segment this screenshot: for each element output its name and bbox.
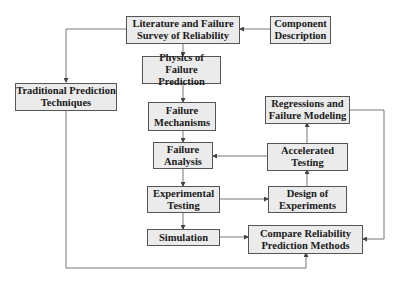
node-traditional-prediction: Traditional Prediction Techniques: [15, 83, 117, 111]
node-literature-survey: Literature and Failure Survey of Reliabi…: [126, 16, 240, 44]
node-physics-of-failure: Physics of Failure Prediction: [142, 56, 221, 84]
node-failure-mechanisms: Failure Mechanisms: [148, 102, 216, 131]
node-component-description: Component Description: [270, 16, 331, 44]
node-simulation: Simulation: [147, 229, 220, 246]
node-accelerated-testing: Accelerated Testing: [267, 143, 348, 171]
node-compare-methods: Compare Reliability Prediction Methods: [248, 225, 363, 254]
node-design-of-experiments: Design of Experiments: [268, 186, 347, 213]
node-experimental-testing: Experimental Testing: [147, 186, 220, 213]
node-failure-analysis: Failure Analysis: [153, 142, 213, 169]
node-regressions-modeling: Regressions and Failure Modeling: [265, 96, 350, 124]
